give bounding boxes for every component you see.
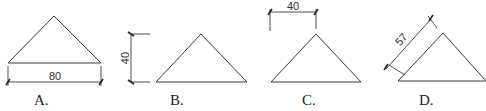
option-label: D. <box>419 92 434 108</box>
dimensioning-options-diagram: 80 A. 40 B. 40 C. 57 D. <box>0 0 486 111</box>
extension-line-bottom <box>389 65 405 75</box>
option-a: 80 A. <box>6 16 103 108</box>
option-d: 57 D. <box>384 15 486 108</box>
triangle-d <box>398 33 486 81</box>
dimension-line <box>386 19 431 69</box>
extension-line-top <box>428 16 437 28</box>
option-label: C. <box>302 92 316 108</box>
option-label: A. <box>34 92 49 108</box>
dimension-label: 80 <box>49 70 61 82</box>
dimension-label: 40 <box>287 0 299 12</box>
triangle-c <box>271 34 361 82</box>
triangle-b <box>156 34 247 82</box>
triangle-a <box>8 16 101 63</box>
option-label: B. <box>170 92 184 108</box>
option-b: 40 B. <box>119 32 247 108</box>
option-c: 40 C. <box>268 0 361 108</box>
dimension-label: 40 <box>119 52 131 64</box>
